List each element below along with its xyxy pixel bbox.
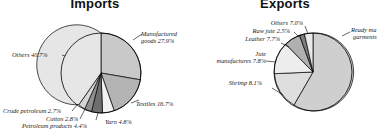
exports-leader-jute-manufactures — [266, 61, 276, 62]
imports-label-petroleum-products: Petroleum products 4.4% — [22, 122, 87, 129]
exports-chart-panel: Exports Ready ma garments Shrimp 8. — [190, 0, 380, 129]
imports-label-manufactured-goods: Manufactured goods 27.9% — [141, 30, 189, 45]
imports-label-textiles: Textiles 16.7% — [136, 100, 173, 107]
imports-label-cotton: Cotton 2.8% — [46, 115, 78, 122]
imports-label-yarn: Yarn 4.8% — [105, 118, 132, 125]
exports-label-ready-made-garments-line2: garments — [353, 33, 377, 40]
exports-label-raw-jute: Raw jute 2.5% — [190, 27, 290, 34]
imports-label-crude-petroleum: Crude petroleum 2.7% — [3, 107, 61, 114]
exports-leader-others — [305, 26, 308, 34]
imports-label-others: Others 40.7% — [12, 51, 48, 58]
imports-slice-manufactured-goods — [101, 33, 141, 80]
exports-label-leather: Leather 7.7% — [190, 35, 280, 42]
figure-root: Imports Manufactured goods 27 — [0, 0, 380, 129]
imports-leader-cotton — [80, 109, 85, 119]
exports-label-jute-manufactures: manufactures 7.8% — [190, 57, 266, 64]
imports-chart-panel: Imports Manufactured goods 27 — [0, 0, 190, 129]
exports-label-others: Others 7.0% — [190, 19, 303, 26]
exports-leader-ready-made-garments — [342, 32, 350, 36]
exports-label-shrimp: Shrimp 8.1% — [190, 79, 262, 86]
imports-leader-yarn — [96, 113, 98, 120]
